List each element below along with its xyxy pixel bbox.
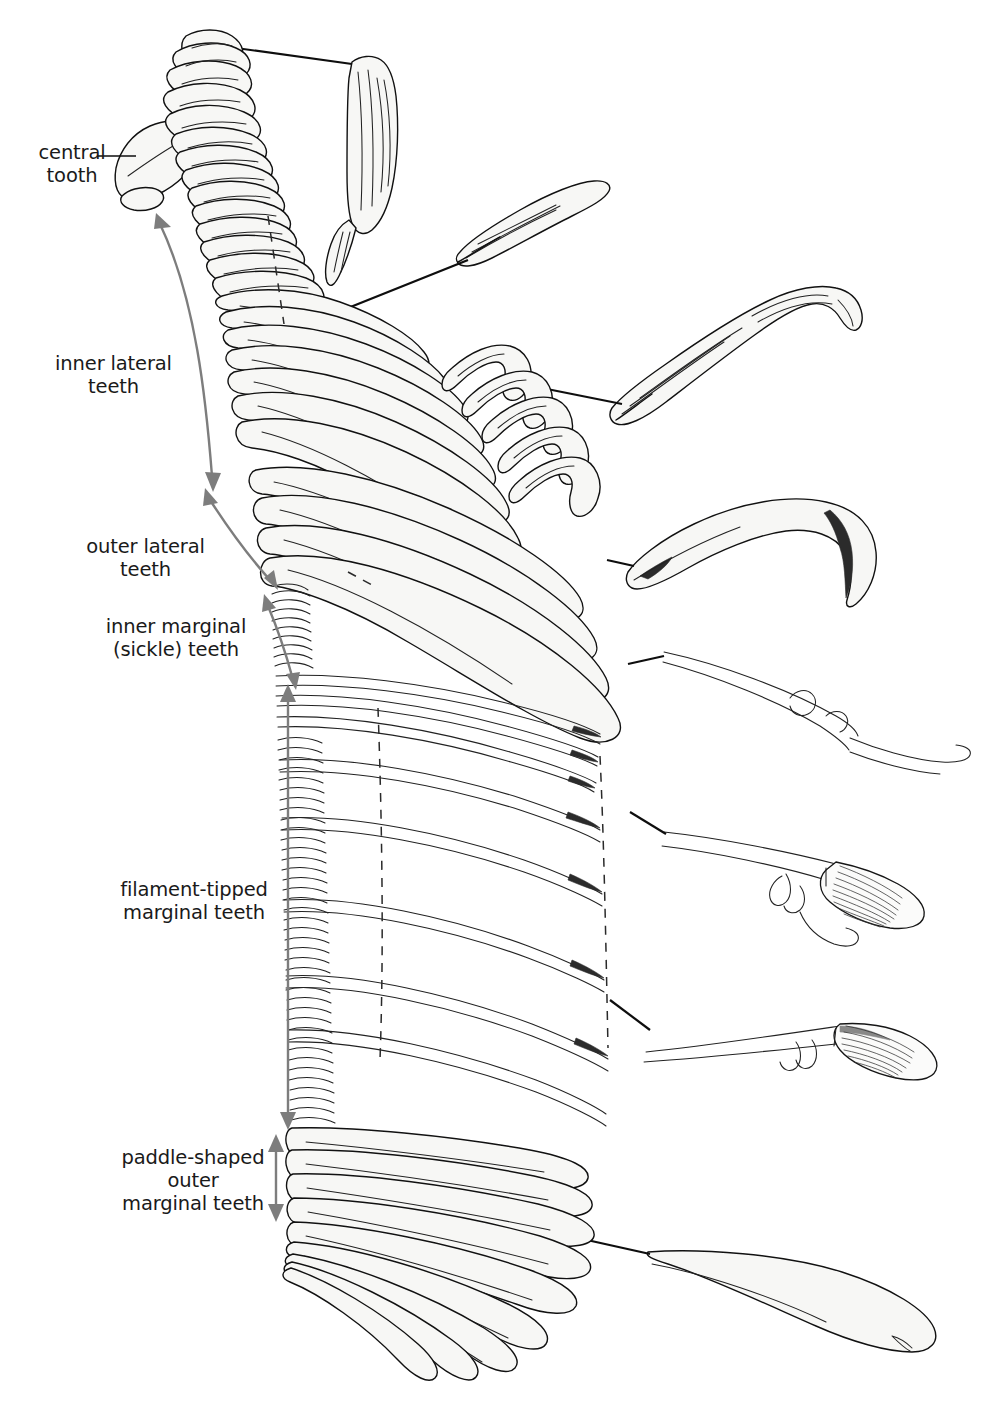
- radula-diagram: central tooth inner lateral teeth outer …: [0, 0, 995, 1422]
- inset-inner-lateral-tooth: [456, 181, 610, 266]
- label-paddle-shaped-teeth: paddle-shaped outer marginal teeth: [104, 1146, 282, 1215]
- arrow-filament-tipped: [280, 684, 296, 1130]
- inner-marginal-comb: [272, 584, 313, 668]
- label-central-tooth: central tooth: [18, 141, 126, 187]
- inset-sickle-tooth: [626, 499, 876, 607]
- filament-rows: [278, 738, 608, 1143]
- inset-central-tooth: [326, 56, 398, 285]
- label-inner-lateral-teeth: inner lateral teeth: [46, 352, 181, 398]
- inset-denticulate-tooth: [628, 652, 970, 774]
- paddle-teeth-fan: [283, 1128, 594, 1381]
- marginal-rows-upper: [249, 467, 620, 742]
- label-inner-marginal-teeth: inner marginal (sickle) teeth: [96, 615, 256, 661]
- inset-filament-tooth-1: [630, 812, 924, 946]
- label-outer-lateral-teeth: outer lateral teeth: [78, 535, 213, 581]
- inset-outer-lateral-tooth: [610, 287, 862, 425]
- dashed-reference-column-right: [600, 756, 608, 1048]
- dashed-reference-column-left: [378, 708, 382, 1060]
- label-filament-tipped-teeth: filament-tipped marginal teeth: [110, 878, 278, 924]
- inset-paddle-tooth: [578, 1238, 936, 1352]
- leader-sickle-inset: [607, 560, 634, 566]
- inset-filament-tooth-2: [610, 1000, 937, 1080]
